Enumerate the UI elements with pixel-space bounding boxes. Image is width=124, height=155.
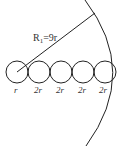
circle-label-4: 2r — [78, 85, 87, 95]
circle-label-2: 2r — [34, 85, 43, 95]
circle-4 — [72, 61, 94, 83]
diagram-canvas: R1=9r r 2r 2r 2r 2r — [0, 0, 124, 155]
circle-2 — [28, 61, 50, 83]
circle-label-3: 2r — [56, 85, 65, 95]
circle-3 — [50, 61, 72, 83]
large-arc — [85, 0, 113, 146]
circle-label-5: 2r — [99, 85, 108, 95]
circle-label-1: r — [14, 85, 18, 95]
radius-label: R1=9r — [33, 32, 58, 45]
